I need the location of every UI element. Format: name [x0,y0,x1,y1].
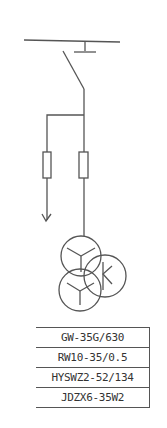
spec-row: RW10-35/0.5 [36,348,150,368]
equipment-spec-table: GW-35G/630 RW10-35/0.5 HYSWZ2-52/134 JDZ… [36,327,150,408]
busbar-tap-icon [74,41,96,52]
fuse-right-icon [79,152,88,178]
voltage-transformer-icon [59,236,126,311]
spec-label: HYSWZ2-52/134 [36,368,150,388]
spec-row: JDZX6-35W2 [36,388,150,408]
busbar [24,40,120,42]
disconnect-switch-icon [63,51,84,89]
spec-row: GW-35G/630 [36,328,150,348]
fuse-left-icon [43,152,51,178]
spec-label: RW10-35/0.5 [36,348,150,368]
spec-row: HYSWZ2-52/134 [36,368,150,388]
spec-label: GW-35G/630 [36,328,150,348]
spec-label: JDZX6-35W2 [36,388,150,408]
